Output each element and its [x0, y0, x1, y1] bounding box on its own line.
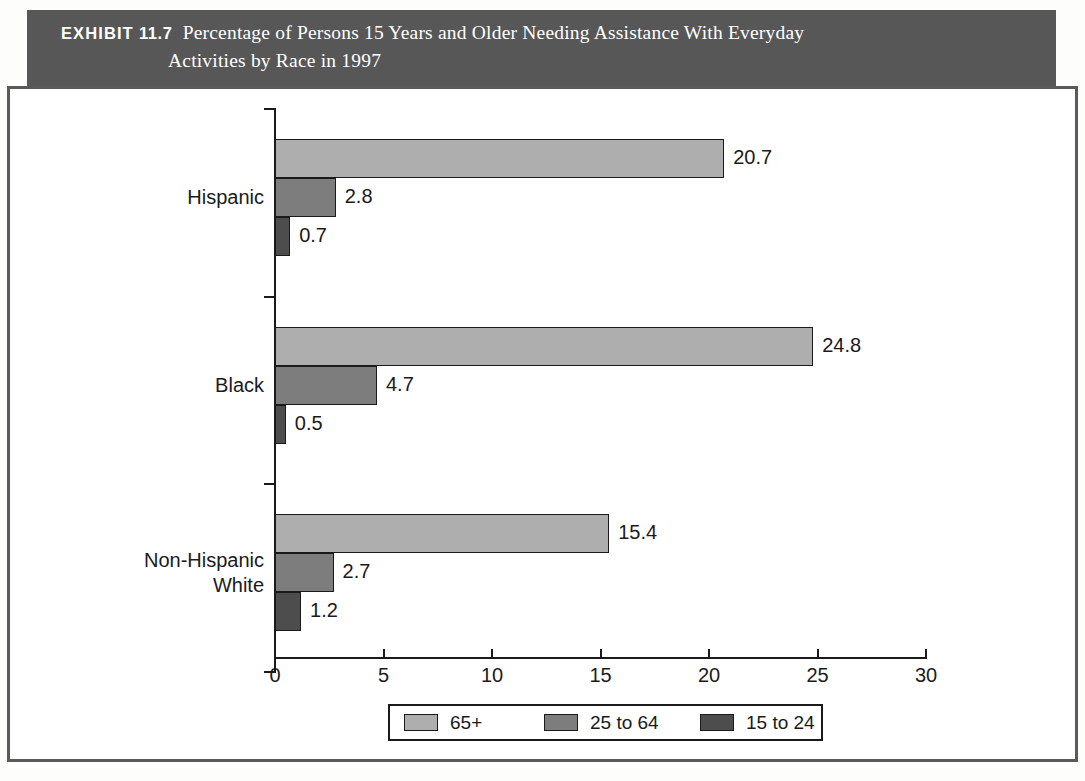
bar-value-label: 20.7 [733, 146, 772, 169]
legend-item-65-[interactable]: 65+ [404, 706, 482, 739]
exhibit-number: 11.7 [139, 24, 173, 42]
chart-legend: 65+25 to 6415 to 24 [388, 704, 823, 741]
exhibit-label: EXHIBIT [61, 24, 134, 42]
legend-label: 15 to 24 [746, 712, 815, 734]
bar-hispanic-25-to-64 [275, 178, 336, 217]
exhibit-title-text-1: Percentage of Persons 15 Years and Older… [183, 22, 805, 43]
legend-item-15-to-24[interactable]: 15 to 24 [700, 706, 815, 739]
exhibit-title-line-2: Activities by Race in 1997 [51, 47, 1032, 74]
bar-value-label: 0.5 [295, 412, 323, 435]
bar-hispanic-65- [275, 139, 724, 178]
exhibit-header-bar: EXHIBIT 11.7 Percentage of Persons 15 Ye… [27, 10, 1056, 88]
bar-black-65- [275, 327, 813, 366]
bar-value-label: 2.8 [345, 185, 373, 208]
x-axis-tick [491, 649, 493, 659]
bar-value-label: 1.2 [310, 599, 338, 622]
legend-item-25-to-64[interactable]: 25 to 64 [544, 706, 659, 739]
x-axis-tick-label: 30 [915, 664, 937, 687]
x-axis-tick [600, 649, 602, 659]
bar-value-label: 2.7 [343, 560, 371, 583]
bar-value-label: 24.8 [822, 334, 861, 357]
x-axis-tick-label: 15 [589, 664, 611, 687]
x-axis-tick [383, 649, 385, 659]
exhibit-title-line-1: EXHIBIT 11.7 Percentage of Persons 15 Ye… [51, 19, 1032, 47]
legend-swatch-icon [544, 714, 578, 731]
bar-non-hispanic-white-25-to-64 [275, 553, 334, 592]
exhibit-title-text-2: Activities by Race in 1997 [168, 50, 381, 71]
bar-value-label: 15.4 [618, 521, 657, 544]
x-axis-tick [708, 649, 710, 659]
y-axis-tick-group-1 [264, 296, 275, 298]
category-label-line: White [40, 573, 264, 598]
bar-value-label: 4.7 [386, 373, 414, 396]
bar-value-label: 0.7 [299, 224, 327, 247]
x-axis-tick [925, 649, 927, 659]
plot-area: 051015202530 20.72.80.724.84.70.515.42.7… [10, 89, 1081, 765]
x-axis-tick-label: 0 [269, 664, 280, 687]
legend-label: 25 to 64 [590, 712, 659, 734]
category-label: Hispanic [40, 185, 264, 210]
category-label-line: Hispanic [40, 185, 264, 210]
bar-black-15-to-24 [275, 405, 286, 444]
bar-black-25-to-64 [275, 366, 377, 405]
y-axis-tick-group-2 [264, 483, 275, 485]
category-label-line: Non-Hispanic [40, 548, 264, 573]
bar-non-hispanic-white-65- [275, 514, 609, 553]
x-axis-tick [274, 648, 276, 659]
category-label: Black [40, 373, 264, 398]
legend-swatch-icon [404, 714, 438, 731]
category-label: Non-HispanicWhite [40, 548, 264, 598]
x-axis-tick-label: 10 [481, 664, 503, 687]
category-label-line: Black [40, 373, 264, 398]
bar-hispanic-15-to-24 [275, 217, 290, 256]
chart-frame: 051015202530 20.72.80.724.84.70.515.42.7… [7, 86, 1078, 762]
legend-swatch-icon [700, 714, 734, 731]
legend-label: 65+ [450, 712, 482, 734]
x-axis-tick-label: 25 [806, 664, 828, 687]
y-axis-tick-bottom [264, 671, 275, 673]
bar-non-hispanic-white-15-to-24 [275, 592, 301, 631]
x-axis-tick-label: 5 [378, 664, 389, 687]
x-axis-tick-label: 20 [698, 664, 720, 687]
x-axis-tick [817, 649, 819, 659]
y-axis-tick-top [264, 108, 275, 110]
